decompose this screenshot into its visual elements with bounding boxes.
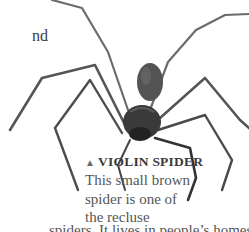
body-text-line: spiders. It lives in people’s homes	[49, 222, 249, 232]
triangle-up-icon: ▲	[85, 157, 95, 168]
caption-line: This small brown	[85, 171, 203, 190]
caption-title-text: VIOLIN SPIDER	[98, 154, 203, 169]
spider-abdomen	[137, 63, 163, 101]
spider-leg	[10, 65, 125, 130]
spider-leg	[52, 0, 128, 110]
caption-title: ▲VIOLIN SPIDER	[85, 153, 203, 171]
spider-leg	[150, 14, 249, 110]
photo-caption: ▲VIOLIN SPIDER This small brown spider i…	[85, 153, 203, 227]
spider-leg	[160, 78, 249, 128]
caption-line: spider is one of	[85, 190, 203, 209]
